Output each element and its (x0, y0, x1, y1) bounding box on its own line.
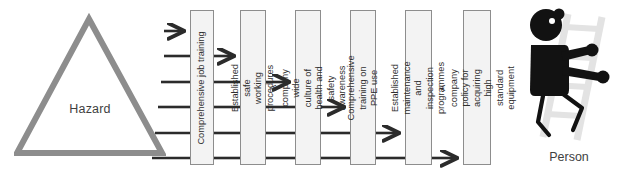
barrier-label-4-line-2: PPE use (369, 55, 381, 120)
barrier-box-3[interactable]: A company wide culture of health and saf… (295, 10, 321, 165)
barrier-label-4: Comprehensive training on PPE use (346, 55, 381, 120)
person-group: Person (505, 4, 633, 177)
barrier-box-5[interactable]: Established maintenance and inspection p… (405, 10, 432, 165)
person-on-ladder-icon (505, 4, 633, 149)
person-label: Person (505, 150, 633, 164)
barrier-label-3-line-1: A company wide culture of (268, 65, 314, 110)
barrier-label-3: A company wide culture of health and saf… (268, 65, 349, 110)
barrier-label-3-line-2: health and safety awareness (314, 65, 349, 110)
barrier-label-1: Comprehensive job training (196, 31, 208, 144)
barrier-label-2-line-1: Established safe working (230, 63, 265, 111)
barrier-box-2[interactable]: Established safe working procedures (240, 10, 266, 165)
barrier-label-4-line-1: Comprehensive training on (346, 55, 369, 120)
connector-gap-4 (376, 133, 405, 158)
barrier-label-6-line-1: A company policy for acquiring (437, 66, 483, 109)
barrier-label-5-line-1: Established maintenance and (390, 61, 425, 114)
barrier-box-6[interactable]: A company policy for acquiring high stan… (463, 10, 491, 165)
connector-gap-0 (152, 31, 190, 158)
barrier-box-1[interactable]: Comprehensive job training (190, 10, 214, 165)
diagram-canvas: Hazard (0, 0, 633, 177)
barrier-box-4[interactable]: Comprehensive training on PPE use (350, 10, 376, 165)
